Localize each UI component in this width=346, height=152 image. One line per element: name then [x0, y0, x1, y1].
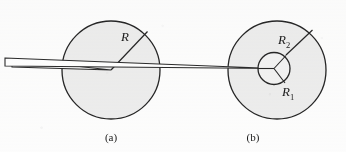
panel-b-inner-radius-subscript: 1 — [290, 92, 294, 102]
figure-svg: R (a) R 2 R 1 (b) — [0, 0, 346, 152]
panel-a-caption: (a) — [105, 131, 118, 144]
panel-b-outer-radius-subscript: 2 — [286, 40, 290, 50]
panel-b: R 2 R 1 (b) — [5, 21, 326, 144]
panel-b-outer-radius-label: R — [277, 32, 286, 47]
panel-b-inner-radius-label: R — [281, 84, 290, 99]
panel-a-radius-label: R — [120, 29, 129, 44]
figure-container: R (a) R 2 R 1 (b) — [0, 0, 346, 152]
panel-a: R (a) — [12, 21, 160, 144]
panel-b-caption: (b) — [247, 131, 260, 144]
